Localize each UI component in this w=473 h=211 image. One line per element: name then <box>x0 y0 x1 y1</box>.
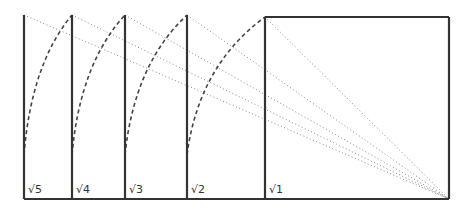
root-rectangles-diagram: √5√4√3√2√1 <box>0 0 473 211</box>
dashed-arcs <box>24 15 265 155</box>
dashed-arc <box>187 17 265 155</box>
rectangle-label: √4 <box>76 183 90 196</box>
diagonal-dotted-lines <box>24 15 449 199</box>
rectangle-label: √1 <box>269 183 283 196</box>
dashed-arc <box>24 15 72 155</box>
rectangle-label: √3 <box>129 183 143 196</box>
dashed-arc <box>125 15 187 155</box>
diagonal-dotted-line <box>265 17 449 199</box>
rectangle-label: √2 <box>191 183 205 196</box>
diagonal-dotted-line <box>187 15 449 199</box>
diagonal-dotted-line <box>72 15 449 199</box>
rectangle-label: √5 <box>28 183 42 196</box>
dashed-arc <box>72 15 125 155</box>
rectangle-labels: √5√4√3√2√1 <box>28 183 283 196</box>
diagonal-dotted-line <box>125 15 449 199</box>
diagonal-dotted-line <box>24 15 449 199</box>
